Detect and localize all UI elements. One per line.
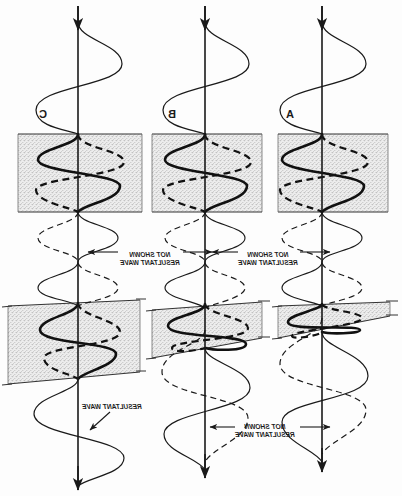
figure-canvas: C B A NOT SHOWN RESULTANT WAVE NOT SHOWN… (0, 0, 402, 496)
upper-band-a (278, 134, 388, 212)
column-label-a: A (286, 108, 294, 120)
column-a-waves (280, 22, 368, 462)
annotation-lower-c-line1: RESULTANT WAVE (82, 403, 142, 410)
column-label-c: C (39, 108, 47, 120)
annotation-lower-b-line1: RESULTANT WAVE (235, 431, 295, 438)
column-b-waves (162, 22, 251, 470)
annotation-upper-c-line2: NOT SHOWN (129, 251, 170, 258)
annotation-upper-b-line1: RESULTANT WAVE (238, 259, 298, 266)
wave-propagation-figure: C B A NOT SHOWN RESULTANT WAVE NOT SHOWN… (0, 0, 402, 496)
column-c-waves (34, 22, 124, 486)
column-label-b: B (168, 108, 176, 120)
annotation-upper-b-line2: NOT SHOWN (247, 251, 288, 258)
annotation-upper-c-line1: RESULTANT WAVE (120, 259, 180, 266)
annotation-lower-b-line2: NOT SHOWN (244, 423, 285, 430)
